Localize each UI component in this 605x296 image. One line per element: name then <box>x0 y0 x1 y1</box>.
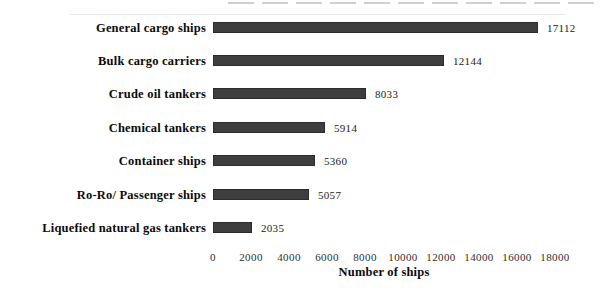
bar <box>213 22 538 33</box>
value-label: 12144 <box>453 54 482 68</box>
value-label: 5914 <box>334 121 357 135</box>
chart-row: Liquefied natural gas tankers2035 <box>0 221 605 235</box>
ship-count-bar-chart: General cargo ships17112Bulk cargo carri… <box>0 0 605 296</box>
bar <box>213 122 325 133</box>
x-axis-title: Number of ships <box>213 265 555 280</box>
crop-artifact-line <box>228 2 602 4</box>
bar <box>213 88 366 99</box>
value-label: 5057 <box>318 188 341 202</box>
category-label: Container ships <box>0 154 206 168</box>
x-tick-label: 18000 <box>525 251 585 263</box>
bar <box>213 222 252 233</box>
category-label: General cargo ships <box>0 21 206 35</box>
chart-row: General cargo ships17112 <box>0 21 605 35</box>
value-label: 5360 <box>324 154 347 168</box>
chart-row: Ro-Ro/ Passenger ships5057 <box>0 188 605 202</box>
chart-row: Chemical tankers5914 <box>0 121 605 135</box>
chart-row: Bulk cargo carriers12144 <box>0 54 605 68</box>
chart-row: Crude oil tankers8033 <box>0 87 605 101</box>
category-label: Ro-Ro/ Passenger ships <box>0 188 206 202</box>
value-label: 17112 <box>547 21 576 35</box>
category-label: Liquefied natural gas tankers <box>0 221 206 235</box>
crop-artifact-line <box>70 14 565 15</box>
category-label: Crude oil tankers <box>0 87 206 101</box>
chart-row: Container ships5360 <box>0 154 605 168</box>
category-label: Bulk cargo carriers <box>0 54 206 68</box>
category-label: Chemical tankers <box>0 121 206 135</box>
bar <box>213 189 309 200</box>
value-label: 8033 <box>375 87 398 101</box>
bar <box>213 55 444 66</box>
value-label: 2035 <box>261 221 284 235</box>
bar <box>213 155 315 166</box>
